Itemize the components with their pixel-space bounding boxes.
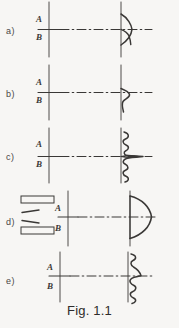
figure-1-1: a) A B b) A B c) A B xyxy=(0,0,179,328)
panel-c-label: c) xyxy=(6,152,14,162)
panel-e-velocity-profile xyxy=(130,254,141,304)
panel-d-upper-flow-line xyxy=(22,210,39,213)
panel-e-label-B: B xyxy=(47,281,53,291)
panel-d-upper-wall-block xyxy=(21,196,54,203)
figure-caption: Fig. 1.1 xyxy=(0,303,179,318)
panel-b-label: b) xyxy=(6,89,15,99)
panel-d-lower-flow-line xyxy=(22,221,39,224)
panel-d-drawing xyxy=(0,189,179,252)
panel-b-label-B: B xyxy=(36,95,42,105)
panel-a: a) A B xyxy=(0,0,179,63)
panel-d-label: d) xyxy=(6,217,15,227)
panel-a-profile-inner-fold xyxy=(121,29,131,44)
panel-b-velocity-profile xyxy=(121,89,130,113)
panel-b: b) A B xyxy=(0,63,179,126)
panel-d-label-A: A xyxy=(55,203,61,213)
panel-d-lower-wall-block xyxy=(21,227,54,234)
panel-c-label-A: A xyxy=(36,139,42,149)
panel-b-label-A: A xyxy=(36,77,42,87)
panel-a-label-B: B xyxy=(36,32,42,42)
panel-a-label-A: A xyxy=(36,14,42,24)
panel-c-drawing xyxy=(0,126,179,189)
panel-c: c) A B xyxy=(0,126,179,189)
panel-a-label: a) xyxy=(6,26,15,36)
panel-e-label-A: A xyxy=(47,262,53,272)
panel-a-drawing xyxy=(0,0,179,63)
panel-d: d) A B xyxy=(0,189,179,252)
panel-c-label-B: B xyxy=(36,159,42,169)
panel-b-drawing xyxy=(0,63,179,126)
panel-e-label: e) xyxy=(6,276,15,286)
panel-d-label-B: B xyxy=(55,223,61,233)
